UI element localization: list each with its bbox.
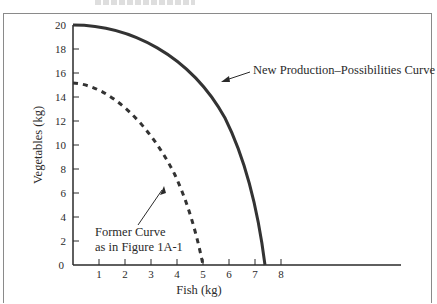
y-tick-labels: 0 2 4 6 8 10 12 14 16 18 20 xyxy=(55,19,67,271)
x-axis-title: Fish (kg) xyxy=(176,283,222,297)
annotation-former-curve-line2: as in Figure 1A-1 xyxy=(95,240,183,254)
x-tick-label: 3 xyxy=(148,268,154,280)
y-tick-label: 2 xyxy=(61,235,67,247)
annotation-former-curve-line1: Former Curve xyxy=(95,225,166,239)
y-tick-label: 16 xyxy=(55,67,67,79)
y-tick-label: 14 xyxy=(55,91,67,103)
x-tick-label: 4 xyxy=(174,268,180,280)
y-tick-label: 12 xyxy=(55,115,66,127)
annotation-new-curve: New Production–Possibilities Curve xyxy=(253,63,435,77)
chart: 0 2 4 6 8 10 12 14 16 18 20 1 2 3 4 5 6 … xyxy=(0,0,437,304)
y-tick-label: 0 xyxy=(59,259,65,271)
x-tick-label: 2 xyxy=(122,268,128,280)
y-tick-label: 4 xyxy=(61,211,67,223)
x-tick-labels: 1 2 3 4 5 6 7 8 xyxy=(96,268,284,280)
y-tick-label: 10 xyxy=(55,139,67,151)
y-tick-label: 20 xyxy=(55,19,67,31)
y-axis-title: Vegetables (kg) xyxy=(31,106,45,184)
x-tick-label: 7 xyxy=(252,268,258,280)
x-tick-label: 8 xyxy=(278,268,284,280)
y-tick-label: 6 xyxy=(61,187,67,199)
x-ticks xyxy=(99,259,281,265)
x-tick-label: 6 xyxy=(226,268,232,280)
y-ticks xyxy=(73,49,79,241)
x-tick-label: 1 xyxy=(96,268,102,280)
x-tick-label: 5 xyxy=(200,268,206,280)
y-tick-label: 18 xyxy=(55,43,67,55)
annotation-arrow-former xyxy=(138,186,166,225)
y-tick-label: 8 xyxy=(61,163,67,175)
annotation-arrow-new xyxy=(221,72,250,82)
